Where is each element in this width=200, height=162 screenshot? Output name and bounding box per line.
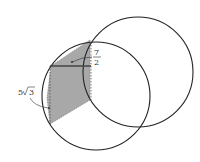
label-two: 2 [94,58,99,67]
pointer-dot-2 [48,107,50,109]
two-circles-diagram: 7 2 5 3 [0,0,200,162]
right-circle [83,17,193,127]
pointer-dot [71,61,73,63]
label-three: 3 [29,88,34,97]
label-seven: 7 [94,48,99,57]
pointer-arrow-five-root-three [30,98,48,108]
label-five: 5 [18,88,23,97]
